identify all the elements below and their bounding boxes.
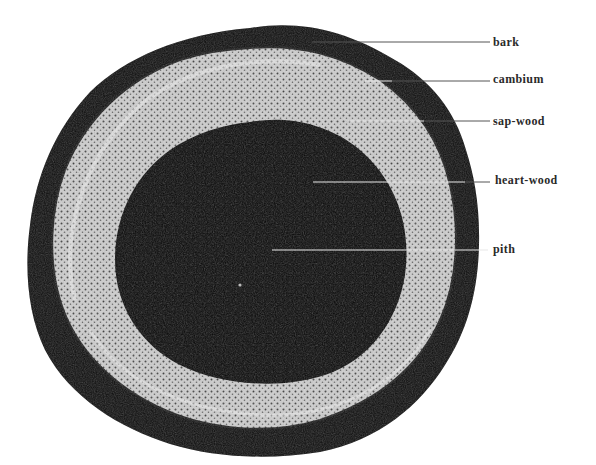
tree-cross-section-diagram [0,0,596,465]
grain-overlay [27,25,479,456]
label-heart-wood: heart-wood [495,174,558,186]
label-bark: bark [493,36,519,48]
label-cambium: cambium [493,73,544,85]
label-pith: pith [493,243,515,255]
label-sap-wood: sap-wood [493,115,545,127]
